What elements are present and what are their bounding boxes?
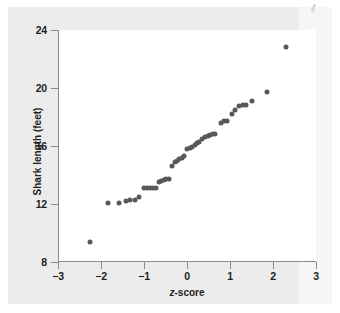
x-axis-tick [187, 262, 188, 269]
x-axis-tick-label: 0 [167, 270, 207, 282]
x-axis-tick [316, 262, 317, 269]
x-axis-tick [58, 262, 59, 269]
data-point [264, 90, 269, 95]
data-point [169, 164, 174, 169]
x-axis-tick [273, 262, 274, 269]
x-axis-tick-label: 3 [296, 270, 336, 282]
y-axis-label: Shark length (feet) [32, 52, 43, 252]
data-point [250, 99, 255, 104]
y-axis-tick-label: 24 [7, 24, 47, 36]
x-axis-tick [230, 262, 231, 269]
data-point [224, 118, 229, 123]
x-axis-tick-label: 1 [210, 270, 250, 282]
data-point [213, 131, 218, 136]
data-point [182, 154, 187, 159]
x-axis-label-rest: -score [174, 287, 204, 298]
x-axis-label: z-score [58, 287, 316, 298]
x-axis-tick-label: −3 [38, 270, 78, 282]
data-point [106, 201, 111, 206]
data-point [283, 45, 288, 50]
y-axis-tick [51, 88, 58, 89]
data-point [153, 186, 158, 191]
y-axis-tick [51, 262, 58, 263]
x-axis-tick-label: 2 [253, 270, 293, 282]
data-point [230, 112, 235, 117]
x-axis-tick [101, 262, 102, 269]
scatter-plot-area [58, 30, 316, 262]
y-axis-tick [51, 30, 58, 31]
x-axis-tick [144, 262, 145, 269]
data-point [117, 200, 122, 205]
normal-quantile-plot-figure: 812162024−3−2−10123 z-score Shark length… [0, 0, 340, 313]
x-axis-tick-label: −2 [81, 270, 121, 282]
x-axis-tick-label: −1 [124, 270, 164, 282]
data-point [88, 239, 93, 244]
y-axis-tick [51, 146, 58, 147]
data-point [136, 195, 141, 200]
data-point [243, 103, 248, 108]
y-axis-tick-label: 8 [7, 256, 47, 268]
y-axis-tick [51, 204, 58, 205]
data-point [166, 176, 171, 181]
